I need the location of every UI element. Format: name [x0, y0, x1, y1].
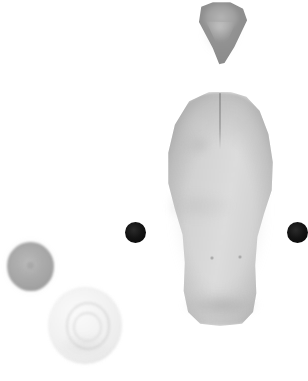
gray-sphere-rim	[5, 240, 56, 293]
main-body-waist-shading	[168, 186, 270, 226]
marker-dot-left	[125, 222, 146, 243]
marker-dot-right	[287, 222, 308, 243]
apex-cone	[192, 1, 250, 65]
pale-swirl-sphere	[48, 287, 122, 364]
pore-left	[210, 256, 214, 260]
apical-cleft	[219, 93, 221, 149]
pale-sphere-rim	[47, 286, 123, 365]
main-body-lobe-shading	[180, 130, 218, 160]
main-body-base-shadow	[170, 291, 272, 333]
main-bilobed-body	[158, 86, 282, 334]
pore-right	[238, 255, 242, 259]
image-canvas	[0, 0, 308, 381]
gray-sphere	[7, 242, 54, 291]
